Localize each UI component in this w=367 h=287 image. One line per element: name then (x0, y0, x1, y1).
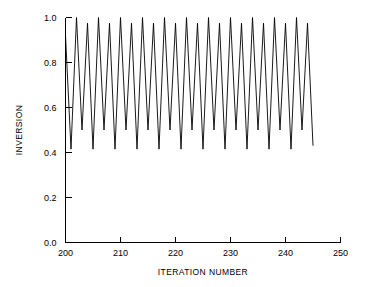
chart-canvas: 0.00.20.40.60.81.0 200210220230240250 IT… (0, 0, 367, 287)
chart-figure: 0.00.20.40.60.81.0 200210220230240250 IT… (0, 0, 367, 287)
x-tick-label: 220 (168, 248, 183, 258)
y-axis-tick-labels: 0.00.20.40.60.81.0 (44, 13, 57, 248)
y-tick-label: 0.4 (44, 148, 57, 158)
y-axis-title: INVERSION (14, 105, 24, 155)
x-axis-tick-labels: 200210220230240250 (58, 248, 348, 258)
data-series-line (66, 18, 314, 150)
y-tick-label: 1.0 (44, 13, 57, 23)
x-tick-label: 210 (113, 248, 128, 258)
x-axis-tick-marks (66, 237, 341, 243)
y-tick-label: 0.6 (44, 103, 57, 113)
y-tick-label: 0.8 (44, 58, 57, 68)
y-tick-label: 0.2 (44, 193, 57, 203)
x-tick-label: 230 (223, 248, 238, 258)
x-axis-title: ITERATION NUMBER (158, 267, 248, 277)
x-tick-label: 250 (333, 248, 348, 258)
x-tick-label: 240 (278, 248, 293, 258)
y-tick-label: 0.0 (44, 238, 57, 248)
x-tick-label: 200 (58, 248, 73, 258)
